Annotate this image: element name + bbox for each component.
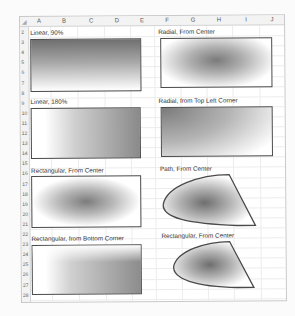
row-header-7[interactable]: 7 xyxy=(21,79,24,85)
row-header-24[interactable]: 24 xyxy=(23,251,29,257)
column-header-f[interactable]: F xyxy=(165,17,169,23)
row-header-2[interactable]: 2 xyxy=(21,29,24,35)
label-rectangular-center: Rectangular, From Center xyxy=(31,166,104,174)
row-header-20[interactable]: 20 xyxy=(22,211,28,217)
column-header-d[interactable]: D xyxy=(115,17,119,23)
row-header-19[interactable]: 19 xyxy=(22,201,28,207)
row-header-15[interactable]: 15 xyxy=(22,160,28,166)
spreadsheet: ◢ A B C D E F G H I J 234567891011121314… xyxy=(19,14,287,303)
label-radial-center: Radial, From Center xyxy=(158,28,215,35)
shape-rectangular-center-freeform[interactable] xyxy=(170,238,260,291)
label-rectangular-bottom-corner: Rectangular, from Bottom Corner xyxy=(32,234,124,242)
row-header-6[interactable]: 6 xyxy=(21,69,24,75)
row-header-3[interactable]: 3 xyxy=(21,39,24,45)
row-header-4[interactable]: 4 xyxy=(21,49,24,55)
shape-linear-180[interactable] xyxy=(31,107,141,159)
row-header-8[interactable]: 8 xyxy=(22,90,25,96)
row-header-16[interactable]: 16 xyxy=(22,170,28,176)
column-header-b[interactable]: B xyxy=(62,18,66,24)
label-linear-180: Linear, 180% xyxy=(31,98,68,105)
shape-radial-top-left[interactable] xyxy=(161,106,273,157)
label-radial-top-left: Radial, from Top Left Corner xyxy=(159,96,238,104)
row-header-12[interactable]: 12 xyxy=(22,130,28,136)
shape-radial-center[interactable] xyxy=(160,37,272,88)
row-header-28[interactable]: 28 xyxy=(23,292,29,298)
column-header-j[interactable]: J xyxy=(271,16,274,22)
row-header-5[interactable]: 5 xyxy=(21,59,24,65)
row-header-25[interactable]: 25 xyxy=(23,261,29,267)
row-header-13[interactable]: 13 xyxy=(22,140,28,146)
shape-rectangular-bottom-corner[interactable] xyxy=(32,244,142,295)
column-header-g[interactable]: G xyxy=(191,17,196,23)
row-header-18[interactable]: 18 xyxy=(22,191,28,197)
label-linear-90: Linear, 90% xyxy=(30,29,63,36)
row-header-9[interactable]: 9 xyxy=(22,100,25,106)
select-all-corner[interactable]: ◢ xyxy=(22,18,27,25)
column-header-a[interactable]: A xyxy=(37,18,41,24)
row-header-14[interactable]: 14 xyxy=(22,150,28,156)
column-header-i[interactable]: I xyxy=(245,16,247,22)
shape-linear-90[interactable] xyxy=(30,38,141,92)
row-header-10[interactable]: 10 xyxy=(22,110,28,116)
row-header-21[interactable]: 21 xyxy=(22,221,28,227)
row-header-17[interactable]: 17 xyxy=(22,180,28,186)
row-header-22[interactable]: 22 xyxy=(23,231,29,237)
row-header-27[interactable]: 27 xyxy=(23,281,29,287)
row-header-26[interactable]: 26 xyxy=(23,271,29,277)
row-header-29[interactable]: 29 xyxy=(23,302,29,303)
column-header-bar: ◢ A B C D E F G H I J xyxy=(20,15,284,27)
column-header-c[interactable]: C xyxy=(89,17,93,23)
shape-rectangular-center[interactable] xyxy=(31,175,141,228)
row-header-23[interactable]: 23 xyxy=(23,241,29,247)
row-header-bar: 2345678910111213141516171819202122232425… xyxy=(20,27,31,302)
shape-path-center[interactable] xyxy=(159,171,259,228)
column-header-e[interactable]: E xyxy=(140,17,144,23)
column-header-h[interactable]: H xyxy=(217,17,221,23)
gridline xyxy=(22,298,286,301)
row-header-11[interactable]: 11 xyxy=(22,120,27,126)
